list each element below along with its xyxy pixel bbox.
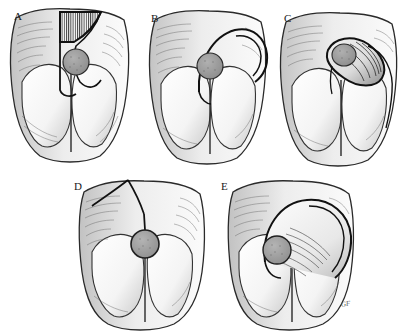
panel-label-a: A [14, 10, 22, 22]
panel-label-e: E [221, 180, 228, 192]
panel-c: C [272, 0, 412, 170]
panel-a: A [0, 0, 140, 170]
panel-d: D [62, 166, 217, 332]
panel-a-illustration [0, 0, 140, 170]
panel-label-d: D [74, 180, 82, 192]
panel-label-c: C [284, 12, 292, 24]
panel-e: E [215, 166, 375, 332]
lesion-marker [263, 236, 291, 264]
artist-signature: GF [340, 299, 350, 308]
panel-c-illustration [272, 0, 412, 170]
lesion-marker [332, 44, 356, 66]
lesion-marker [131, 230, 159, 258]
lesion-marker [63, 49, 89, 75]
lesion-marker [197, 53, 223, 79]
panel-label-b: B [151, 12, 159, 24]
panel-d-illustration [62, 166, 217, 332]
incision-stem [144, 214, 145, 230]
panel-b: B [137, 0, 277, 170]
panel-b-illustration [137, 0, 277, 170]
panel-e-illustration [215, 166, 375, 332]
figure-plate: A [0, 0, 412, 332]
